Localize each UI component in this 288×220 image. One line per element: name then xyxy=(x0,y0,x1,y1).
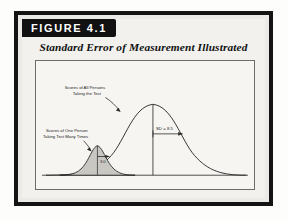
figure-title: Standard Error of Measurement Illustrate… xyxy=(22,41,265,53)
population-curve xyxy=(46,104,246,175)
person-annotation-line1: Scores of One Person xyxy=(46,128,88,133)
population-annotation-leader xyxy=(105,97,119,110)
distribution-chart: SD = 8.5 3.0 Scores of All Persons Takin… xyxy=(36,61,254,189)
figure-inner-panel: FIGURE 4.1 Standard Error of Measurement… xyxy=(22,19,265,198)
population-annotation-arrowhead xyxy=(116,108,121,112)
population-annotation-line2: Taking the Test xyxy=(73,91,102,96)
plot-area: SD = 8.5 3.0 Scores of All Persons Takin… xyxy=(35,60,255,190)
figure-number-tab: FIGURE 4.1 xyxy=(22,19,116,37)
sd-label: SD = 8.5 xyxy=(156,126,174,131)
figure-frame: FIGURE 4.1 Standard Error of Measurement… xyxy=(14,11,273,206)
population-annotation-line1: Scores of All Persons xyxy=(65,85,105,90)
sem-label: 3.0 xyxy=(100,159,106,164)
person-annotation-line2: Taking Test Many Times xyxy=(43,134,88,139)
person-annotation-arrowhead xyxy=(87,147,92,151)
figure-page: FIGURE 4.1 Standard Error of Measurement… xyxy=(0,0,288,220)
